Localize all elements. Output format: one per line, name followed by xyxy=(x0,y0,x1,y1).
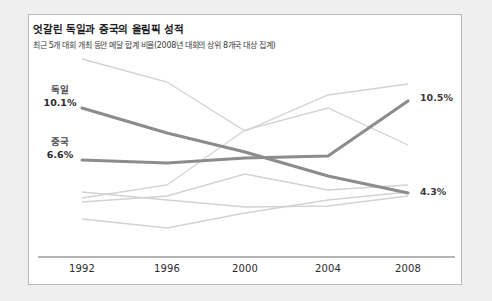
x-axis-tick-1996: 1996 xyxy=(145,263,189,274)
chart-title: 엇갈린 독일과 중국의 올림픽 성적 xyxy=(33,21,184,36)
series-label-china: 중국 6.6% xyxy=(33,136,87,162)
series-label-germany-value: 10.1% xyxy=(33,97,87,110)
series-endpoint-value-germany: 4.3% xyxy=(420,186,446,197)
series-label-germany: 독일 10.1% xyxy=(33,84,87,110)
series-label-germany-name: 독일 xyxy=(33,84,87,97)
x-axis-tick-2000: 2000 xyxy=(223,263,267,274)
series-label-china-value: 6.6% xyxy=(33,149,87,162)
chart-card xyxy=(28,14,462,285)
x-axis-tick-1992: 1992 xyxy=(60,263,104,274)
series-label-china-name: 중국 xyxy=(33,136,87,149)
x-axis-tick-2004: 2004 xyxy=(306,263,350,274)
screenshot-root: 엇갈린 독일과 중국의 올림픽 성적 최근 5개 대회 개최 동안 메달 합계 … xyxy=(0,0,492,301)
series-endpoint-value-china: 10.5% xyxy=(420,92,453,103)
x-axis-tick-2008: 2008 xyxy=(386,263,430,274)
chart-subtitle: 최근 5개 대회 개최 동안 메달 합계 비율(2008년 대회의 상위 8개국… xyxy=(33,39,275,50)
